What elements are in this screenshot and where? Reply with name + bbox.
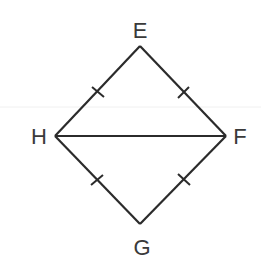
segment-ef — [140, 46, 226, 136]
vertex-label-f: F — [233, 124, 246, 149]
vertex-label-g: G — [133, 235, 150, 260]
vertex-label-e: E — [133, 18, 148, 43]
rhombus-figure: E F G H — [0, 0, 261, 277]
diagram-canvas: E F G H — [0, 0, 261, 277]
vertex-label-h: H — [31, 124, 47, 149]
segment-fg — [140, 136, 226, 224]
